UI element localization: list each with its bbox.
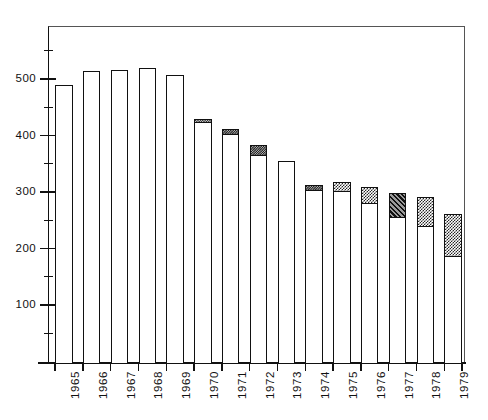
x-tick	[277, 363, 278, 371]
bar-shaded-segment-1978	[417, 197, 435, 228]
bar-1978	[417, 28, 435, 364]
y-axis-label: 300	[0, 185, 36, 197]
x-axis-label-1965: 1965	[69, 371, 81, 399]
x-axis-label-1969: 1969	[180, 371, 192, 399]
bar-1972	[250, 28, 268, 364]
x-axis-label-1966: 1966	[97, 371, 109, 399]
bar-body-1977	[389, 193, 407, 363]
x-axis-label-1972: 1972	[264, 371, 276, 399]
bar-1967	[111, 28, 129, 364]
bar-1971	[222, 28, 240, 364]
bar-1966	[83, 28, 101, 364]
bar-1965	[55, 28, 73, 364]
x-tick	[360, 363, 361, 371]
bar-body-1976	[361, 187, 379, 363]
bar-shaded-segment-1972	[250, 145, 268, 156]
bar-body-1973	[278, 161, 296, 363]
bar-body-1966	[83, 71, 101, 363]
y-axis-label: 400	[0, 129, 36, 141]
x-axis-label-1968: 1968	[152, 371, 164, 399]
bar-1976	[361, 28, 379, 364]
x-tick	[221, 363, 222, 371]
bar-1979	[444, 28, 462, 364]
bar-body-1967	[111, 70, 129, 363]
bar-body-1968	[139, 68, 157, 363]
x-axis-label-1971: 1971	[236, 371, 248, 399]
x-tick	[110, 363, 111, 371]
bar-1968	[139, 28, 157, 364]
x-tick	[305, 363, 306, 371]
x-tick	[388, 363, 389, 371]
x-axis-label-1977: 1977	[403, 371, 415, 399]
x-axis-label-1973: 1973	[291, 371, 303, 399]
x-tick	[138, 363, 139, 371]
bar-body-1975	[333, 182, 351, 363]
x-axis-label-1974: 1974	[319, 371, 331, 399]
x-axis-label-1975: 1975	[347, 371, 359, 399]
bar-1974	[305, 28, 323, 364]
bar-1977	[389, 28, 407, 364]
x-tick	[82, 363, 83, 371]
bars-layer	[48, 26, 465, 363]
x-tick	[416, 363, 417, 371]
bar-body-1971	[222, 129, 240, 363]
x-axis-label-1979: 1979	[458, 371, 470, 399]
x-axis-label-1967: 1967	[125, 371, 137, 399]
bar-shaded-segment-1971	[222, 129, 240, 135]
x-tick	[166, 363, 167, 371]
x-tick	[444, 363, 445, 371]
bar-body-1970	[194, 119, 212, 363]
bar-shaded-segment-1976	[361, 187, 379, 204]
y-axis-label: 100	[0, 298, 36, 310]
x-axis-label-1978: 1978	[430, 371, 442, 399]
x-tick	[54, 363, 55, 371]
bar-body-1969	[166, 75, 184, 363]
bar-shaded-segment-1974	[305, 185, 323, 191]
x-tick	[461, 363, 462, 371]
y-axis-label: 200	[0, 242, 36, 254]
bar-body-1974	[305, 185, 323, 363]
bar-shaded-segment-1975	[333, 182, 351, 192]
bar-1970	[194, 28, 212, 364]
bar-1969	[166, 28, 184, 364]
y-axis-label: 500	[0, 72, 36, 84]
x-axis-label-1970: 1970	[208, 371, 220, 399]
bar-1975	[333, 28, 351, 364]
bar-body-1972	[250, 145, 268, 363]
x-tick	[193, 363, 194, 371]
bar-shaded-segment-1977	[389, 193, 407, 218]
bar-shaded-segment-1970	[194, 119, 212, 123]
bar-chart: 100200300400500 196519661967196819691970…	[0, 0, 488, 420]
bar-body-1965	[55, 85, 73, 363]
x-tick	[249, 363, 250, 371]
x-tick	[332, 363, 333, 371]
x-axis-label-1976: 1976	[375, 371, 387, 399]
bar-shaded-segment-1979	[444, 214, 462, 258]
bar-1973	[278, 28, 296, 364]
